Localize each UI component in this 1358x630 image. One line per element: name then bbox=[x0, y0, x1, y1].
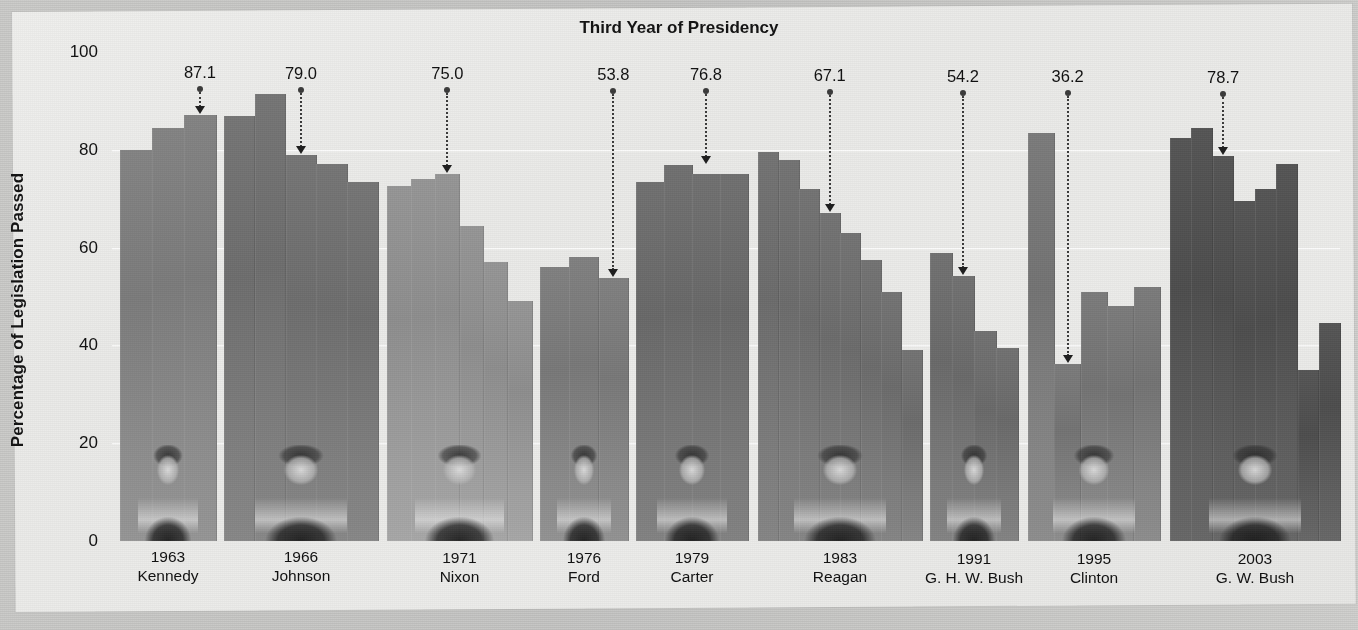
bar bbox=[599, 278, 629, 541]
callout-value: 53.8 bbox=[597, 65, 629, 84]
callout-value: 54.2 bbox=[947, 67, 979, 86]
callout-arrowhead bbox=[608, 269, 618, 277]
bar bbox=[460, 226, 485, 541]
callout-value: 76.8 bbox=[690, 65, 722, 84]
chart-title: Third Year of Presidency bbox=[0, 18, 1358, 38]
bar bbox=[692, 174, 721, 541]
bar bbox=[930, 253, 953, 542]
y-tick-label: 40 bbox=[52, 335, 98, 355]
callout-arrowhead bbox=[1063, 355, 1073, 363]
bar bbox=[664, 165, 693, 541]
y-axis-label: Percentage of Legislation Passed bbox=[8, 80, 28, 540]
bar bbox=[1028, 133, 1055, 541]
bar bbox=[1170, 138, 1192, 541]
bar bbox=[286, 155, 317, 541]
bar bbox=[152, 128, 185, 541]
bar bbox=[881, 292, 902, 541]
callout-arrowhead bbox=[442, 165, 452, 173]
chart-figure: Third Year of Presidency Percentage of L… bbox=[0, 0, 1358, 630]
callout-leader-line bbox=[446, 93, 448, 166]
bar bbox=[720, 174, 749, 541]
callout-leader-line bbox=[705, 94, 707, 157]
callout-value: 67.1 bbox=[814, 66, 846, 85]
bar bbox=[996, 348, 1019, 541]
bar bbox=[636, 182, 665, 541]
callout-leader-line bbox=[300, 93, 302, 147]
bar bbox=[779, 160, 800, 541]
president-group bbox=[758, 52, 922, 541]
bar bbox=[799, 189, 820, 541]
callout-arrowhead bbox=[1218, 147, 1228, 155]
president-group bbox=[1170, 52, 1340, 541]
bar bbox=[484, 262, 509, 541]
bar bbox=[569, 257, 599, 541]
bar bbox=[1081, 292, 1108, 541]
callout-arrowhead bbox=[296, 146, 306, 154]
y-tick-label: 80 bbox=[52, 140, 98, 160]
plot-area bbox=[112, 52, 1340, 541]
group-year: 1966 bbox=[211, 547, 391, 566]
bar bbox=[255, 94, 286, 541]
callout-value: 87.1 bbox=[184, 63, 216, 82]
bar bbox=[1107, 306, 1134, 541]
callout-arrowhead bbox=[958, 267, 968, 275]
callout-value: 79.0 bbox=[285, 64, 317, 83]
bar bbox=[974, 331, 997, 541]
callout-leader-line bbox=[962, 96, 964, 268]
bar bbox=[1298, 370, 1320, 541]
callout-leader-line bbox=[612, 94, 614, 270]
bar bbox=[120, 150, 153, 541]
bar bbox=[1276, 164, 1298, 541]
y-tick-label: 60 bbox=[52, 238, 98, 258]
bar bbox=[1213, 156, 1235, 541]
president-group bbox=[387, 52, 532, 541]
callout-leader-line bbox=[199, 92, 201, 107]
callout-leader-line bbox=[1067, 96, 1069, 356]
x-axis-group-label: 2003G. W. Bush bbox=[1165, 549, 1345, 587]
bar bbox=[758, 152, 779, 541]
bar bbox=[435, 174, 460, 541]
bar bbox=[387, 186, 412, 541]
bar bbox=[224, 116, 255, 541]
callout-value: 78.7 bbox=[1207, 68, 1239, 87]
callout-arrowhead bbox=[701, 156, 711, 164]
group-year: 2003 bbox=[1165, 549, 1345, 568]
bar bbox=[1255, 189, 1277, 541]
bar bbox=[540, 267, 570, 541]
bar bbox=[952, 276, 975, 541]
president-group bbox=[120, 52, 216, 541]
bar bbox=[347, 182, 378, 541]
x-axis-group-label: 1966Johnson bbox=[211, 547, 391, 585]
president-group bbox=[930, 52, 1018, 541]
bar bbox=[508, 301, 533, 541]
bar bbox=[861, 260, 882, 541]
callout-leader-line bbox=[1222, 97, 1224, 148]
group-year: 1995 bbox=[1004, 549, 1184, 568]
bar bbox=[316, 164, 347, 541]
callout-arrowhead bbox=[825, 204, 835, 212]
group-president-name: G. W. Bush bbox=[1165, 568, 1345, 587]
group-president-name: Johnson bbox=[211, 566, 391, 585]
callout-value: 75.0 bbox=[431, 64, 463, 83]
y-tick-label: 100 bbox=[52, 42, 98, 62]
callout-arrowhead bbox=[195, 106, 205, 114]
callout-leader-line bbox=[829, 95, 831, 205]
bar bbox=[1134, 287, 1161, 541]
bar bbox=[1191, 128, 1213, 541]
y-tick-label: 20 bbox=[52, 433, 98, 453]
group-president-name: Clinton bbox=[1004, 568, 1184, 587]
bar bbox=[1319, 323, 1341, 541]
bar bbox=[1234, 201, 1256, 541]
bar bbox=[820, 213, 841, 541]
president-group bbox=[540, 52, 628, 541]
president-group bbox=[636, 52, 748, 541]
x-axis-group-label: 1995Clinton bbox=[1004, 549, 1184, 587]
callout-value: 36.2 bbox=[1052, 67, 1084, 86]
bar bbox=[1054, 364, 1081, 541]
bar bbox=[902, 350, 923, 541]
president-group bbox=[1028, 52, 1160, 541]
bar bbox=[411, 179, 436, 541]
bar bbox=[840, 233, 861, 541]
bar bbox=[184, 115, 217, 541]
